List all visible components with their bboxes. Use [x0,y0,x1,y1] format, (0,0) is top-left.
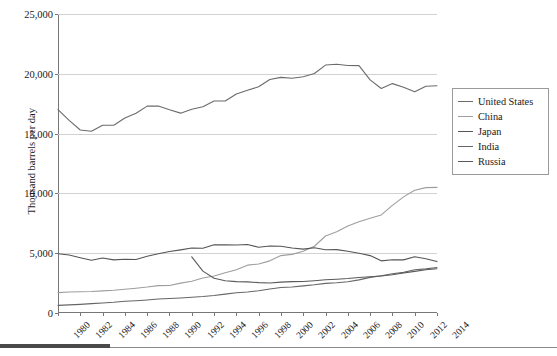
legend-swatch-icon [458,131,473,132]
series-line-india [58,268,437,306]
x-tick-mark [147,313,148,316]
series-line-china [58,187,437,292]
legend-label: United States [478,96,533,107]
legend-label: India [478,141,499,152]
y-tick-label: 15,000 [24,128,53,139]
x-tick-label: 2008 [383,319,404,340]
x-tick-label: 2004 [338,319,359,340]
x-tick-label: 1980 [71,319,92,340]
y-tick-label: 25,000 [24,9,53,20]
x-tick-mark [281,313,282,316]
x-tick-mark [259,313,260,316]
x-tick-mark [236,313,237,316]
legend-swatch-icon [458,101,473,102]
x-tick-label: 2006 [360,319,381,340]
legend-item-russia[interactable]: Russia [458,154,541,169]
y-tick-label: 0 [48,308,53,319]
x-tick-label: 1992 [204,319,225,340]
series-line-russia [192,257,437,283]
series-line-united-states [58,64,437,131]
series-lines [58,14,437,313]
x-tick-mark [370,313,371,316]
legend-item-japan[interactable]: Japan [458,124,541,139]
x-tick-mark [80,313,81,316]
x-tick-label: 2010 [405,319,426,340]
y-tick-label: 5,000 [29,248,53,259]
legend-swatch-icon [458,161,473,162]
x-tick-mark [214,313,215,316]
legend-label: Japan [478,126,501,137]
footer-rule-accent [0,344,110,348]
y-tick-label: 10,000 [24,188,53,199]
x-tick-label: 1998 [271,319,292,340]
legend-swatch-icon [458,146,473,147]
x-tick-label: 2012 [427,319,448,340]
x-tick-label: 2000 [294,319,315,340]
chart-figure: Thousand barrels per day 05,00010,00015,… [0,0,557,356]
x-tick-label: 1986 [137,319,158,340]
series-line-japan [58,244,437,261]
legend-item-india[interactable]: India [458,139,541,154]
x-tick-mark [58,313,59,316]
x-tick-mark [125,313,126,316]
y-axis-title: Thousand barrels per day [27,61,38,261]
legend-label: China [478,111,503,122]
x-tick-mark [326,313,327,316]
x-tick-mark [192,313,193,316]
x-tick-label: 1990 [182,319,203,340]
legend-swatch-icon [458,116,473,117]
x-tick-label: 1984 [115,319,136,340]
legend-item-china[interactable]: China [458,109,541,124]
x-tick-label: 1994 [227,319,248,340]
x-tick-label: 1996 [249,319,270,340]
plot-area: 05,00010,00015,00020,00025,000 198019821… [58,14,437,313]
x-tick-label: 2014 [450,319,471,340]
x-tick-mark [303,313,304,316]
x-tick-label: 1982 [93,319,114,340]
x-tick-mark [103,313,104,316]
legend-label: Russia [478,156,505,167]
x-tick-mark [392,313,393,316]
x-tick-mark [169,313,170,316]
x-tick-mark [437,313,438,316]
x-tick-label: 2002 [316,319,337,340]
legend-item-united-states[interactable]: United States [458,94,541,109]
chart-legend: United StatesChinaJapanIndiaRussia [452,88,549,175]
y-tick-label: 20,000 [24,68,53,79]
x-tick-label: 1988 [160,319,181,340]
x-tick-mark [348,313,349,316]
x-tick-mark [415,313,416,316]
